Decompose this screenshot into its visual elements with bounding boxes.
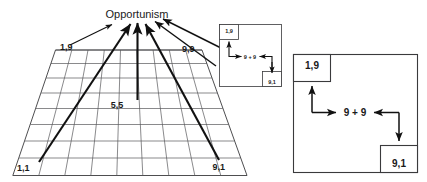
inset-label-1-9: 1,9: [225, 28, 233, 34]
grid-label-top-left: 1,9: [60, 42, 73, 52]
opportunism-grid-figure: 1,9 9,9 1,1 9,1 5,5 Opportunism: [0, 0, 427, 182]
inset-label-9-plus-9: 9 + 9: [244, 54, 256, 60]
grid-label-center: 5,5: [111, 100, 124, 110]
main-opportunism-box: 1,9 9,1 9 + 9: [294, 55, 418, 173]
main-label-1-9: 1,9: [305, 60, 319, 71]
inset-opportunism-box: 1,9 9,1 9 + 9: [220, 25, 282, 87]
main-label-9-1: 9,1: [392, 158, 406, 169]
figure-canvas: 1,9 9,9 1,1 9,1 5,5 Opportunism: [0, 0, 427, 182]
page-title: Opportunism: [106, 8, 169, 20]
inset-label-9-1: 9,1: [268, 79, 276, 85]
grid-label-bottom-left: 1,1: [17, 163, 30, 173]
grid-label-bottom-right: 9,1: [212, 162, 225, 172]
main-label-9-plus-9: 9 + 9: [344, 107, 367, 118]
